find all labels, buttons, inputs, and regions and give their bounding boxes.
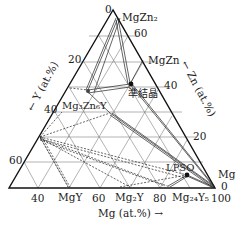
label-mg: Mg [218, 168, 236, 180]
ternary-phase-diagram: MgZn₂ MgZn 準結晶 Mg₃Zn₆Y LPSO Mg MgY Mg₂Y … [0, 0, 245, 225]
tick-right-0: 0 [221, 180, 228, 192]
label-mg24y5: Mg₂₄Y₅ [172, 191, 209, 203]
label-lpso: LPSO [166, 162, 194, 173]
tick-left-20: 20 [68, 53, 81, 65]
marker-quasicrystal [129, 82, 134, 87]
label-mgzn2: MgZn₂ [122, 11, 158, 23]
tick-right-40: 40 [164, 79, 177, 91]
axis-bottom-label: Mg (at.%) → [98, 207, 163, 219]
tick-bottom-80: 80 [153, 192, 166, 204]
axis-right-label: ← Zn (at.%) [179, 58, 218, 118]
marker-lpso [185, 173, 190, 178]
tick-left-40: 40 [44, 103, 57, 115]
label-quasicrystal: 準結晶 [128, 87, 158, 99]
label-mg3zn6y: Mg₃Zn₆Y [62, 100, 107, 111]
marker-mg3zn6y [86, 89, 90, 93]
label-mgzn: MgZn [148, 54, 180, 66]
tick-right-60: 60 [134, 27, 147, 39]
tick-left-60: 60 [9, 154, 22, 166]
tick-right-20: 20 [193, 130, 206, 142]
tick-bottom-40: 40 [31, 192, 44, 204]
label-mgy: MgY [58, 191, 83, 203]
tick-bottom-100: 100 [211, 192, 231, 204]
label-mg2y: Mg₂Y [115, 191, 145, 203]
tick-left-0: 0 [105, 3, 112, 15]
tick-bottom-60: 60 [92, 192, 105, 204]
